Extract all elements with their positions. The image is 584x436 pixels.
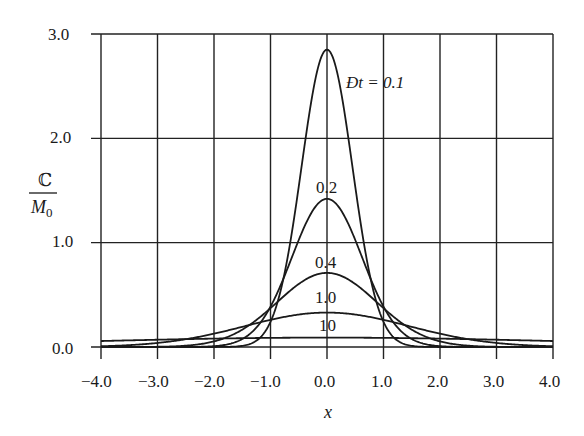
x-tick-label: −3.0 bbox=[138, 372, 169, 391]
x-tick-label: −4.0 bbox=[81, 372, 112, 391]
curve-label-0-4: 0.4 bbox=[315, 253, 337, 272]
x-axis-title: x bbox=[323, 402, 332, 422]
y-axis-numerator: ℂ bbox=[38, 169, 52, 190]
x-tick-label: −2.0 bbox=[194, 372, 225, 391]
y-tick-label: 0.0 bbox=[52, 339, 73, 358]
curve-label-1-0: 1.0 bbox=[315, 288, 336, 307]
y-tick-label: 3.0 bbox=[48, 25, 69, 44]
x-tick-label: −1.0 bbox=[250, 372, 281, 391]
y-axis-denominator: M bbox=[30, 197, 47, 217]
x-tick-label: 4.0 bbox=[539, 372, 560, 391]
y-axis-title: ℂ M 0 bbox=[29, 169, 57, 220]
x-tick-label: 0.0 bbox=[314, 372, 335, 391]
curve-label-0-2: 0.2 bbox=[316, 178, 337, 197]
y-tick-label: 1.0 bbox=[52, 232, 73, 251]
y-tick-label: 2.0 bbox=[50, 128, 71, 147]
x-tick-label: 3.0 bbox=[483, 372, 504, 391]
x-tick-label: 2.0 bbox=[427, 372, 448, 391]
y-axis-denominator-sub: 0 bbox=[46, 205, 53, 220]
curve-label-text: Ðt = 0.1 bbox=[345, 73, 404, 92]
curve-label-0-1: Ðt = 0.1 bbox=[345, 73, 404, 92]
x-tick-label: 1.0 bbox=[371, 372, 392, 391]
chart: 3.0 2.0 1.0 0.0 −4.0 −3.0 −2.0 −1.0 0.0 … bbox=[0, 0, 584, 436]
curve-label-10: 10 bbox=[319, 316, 336, 335]
